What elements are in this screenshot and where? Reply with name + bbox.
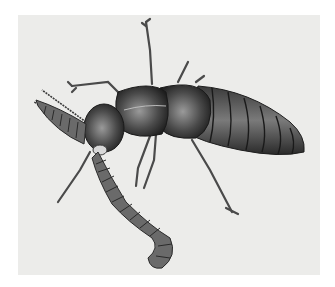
worm-lower	[92, 152, 173, 268]
beetle-illustration	[0, 0, 335, 287]
beetle-elytra	[116, 85, 211, 138]
beetle-head	[84, 104, 124, 155]
worm-upper	[36, 100, 86, 144]
